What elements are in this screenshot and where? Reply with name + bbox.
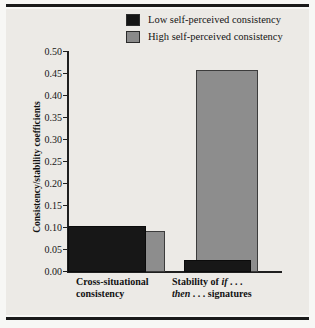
y-tick-label: 0.50 <box>16 47 62 57</box>
figure-container: Low self-perceived consistency High self… <box>0 0 315 328</box>
y-tick-label: 0.00 <box>16 267 62 277</box>
x-label-group2-dots1: . . . <box>228 276 243 287</box>
y-tick-label: 0.05 <box>16 245 62 255</box>
x-label-group2-line1: Stability of if . . . <box>172 276 252 288</box>
y-tick-label: 0.40 <box>16 91 62 101</box>
x-label-group2-then: then <box>172 288 190 299</box>
y-tick-label: 0.20 <box>16 179 62 189</box>
plot-area: Consistency/stability coefficients 0.50 … <box>0 0 315 328</box>
x-label-group2-prefix: Stability of <box>172 276 221 287</box>
x-label-group1: Cross-situational consistency <box>76 276 149 300</box>
bar-group2-high <box>196 70 258 272</box>
bar-group1-high <box>145 231 165 272</box>
y-tick-label: 0.10 <box>16 223 62 233</box>
y-tick-label: 0.25 <box>16 157 62 167</box>
y-tick-label: 0.30 <box>16 135 62 145</box>
bar-group2-low <box>184 260 251 272</box>
y-tick-label: 0.15 <box>16 201 62 211</box>
y-axis-ticks: 0.50 0.45 0.40 0.35 0.30 0.25 0.20 0.15 … <box>10 0 62 328</box>
x-label-group2: Stability of if . . . then . . . signatu… <box>172 276 252 300</box>
y-tick-label: 0.35 <box>16 113 62 123</box>
y-tick-label: 0.45 <box>16 69 62 79</box>
x-label-group1-line1: Cross-situational <box>76 276 149 288</box>
x-label-group1-line2: consistency <box>76 288 149 300</box>
bar-group1-low <box>68 226 146 273</box>
x-label-group2-suffix: . . . signatures <box>190 288 251 299</box>
x-label-group2-line2: then . . . signatures <box>172 288 252 300</box>
